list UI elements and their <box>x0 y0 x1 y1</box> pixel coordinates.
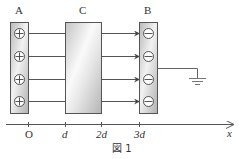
tick-label-origin: O <box>25 129 33 140</box>
axis-label-x: x <box>227 128 232 139</box>
plate-b <box>140 23 158 114</box>
tick-label-d: d <box>62 129 68 140</box>
diagram-canvas <box>0 0 242 159</box>
field-arrows-c-to-b <box>101 34 139 102</box>
conductor-c <box>66 23 102 114</box>
plate-a-label: A <box>15 5 23 16</box>
ground-connection <box>158 69 198 79</box>
box-c-label: C <box>79 5 86 16</box>
tick-label-3d: 3d <box>134 129 145 140</box>
figure-caption: 図 1 <box>112 144 132 154</box>
tick-label-2d: 2d <box>96 129 107 140</box>
plate-b-label: B <box>144 5 151 16</box>
ground-icon <box>189 79 206 85</box>
field-lines-a-to-c <box>28 34 65 102</box>
plate-a <box>11 23 29 114</box>
x-axis <box>6 122 233 127</box>
